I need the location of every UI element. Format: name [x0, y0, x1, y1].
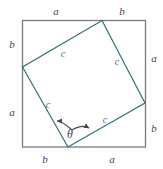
angle-arc-right-head — [72, 126, 89, 130]
label-top-left-segment: a — [53, 6, 59, 17]
outer-square — [23, 21, 146, 148]
label-top-right-segment: b — [119, 6, 125, 17]
label-left-upper-segment: b — [9, 39, 15, 50]
label-right-lower-segment: b — [151, 123, 157, 134]
label-bottom-left-segment: b — [42, 154, 48, 165]
label-hypotenuse-bottom-left: c — [46, 100, 50, 110]
diagram-canvas — [0, 0, 163, 169]
label-hypotenuse-bottom-right: c — [103, 115, 107, 125]
label-right-upper-segment: a — [151, 53, 157, 64]
label-left-lower-segment: a — [9, 107, 15, 118]
inner-square — [23, 21, 146, 148]
label-hypotenuse-top-left: c — [61, 49, 65, 59]
pythagorean-diagram: a b a b b a b a c c c c θ — [0, 0, 163, 169]
label-angle-theta: θ — [67, 128, 73, 140]
label-bottom-right-segment: a — [109, 154, 115, 165]
label-hypotenuse-top-right: c — [115, 57, 119, 67]
